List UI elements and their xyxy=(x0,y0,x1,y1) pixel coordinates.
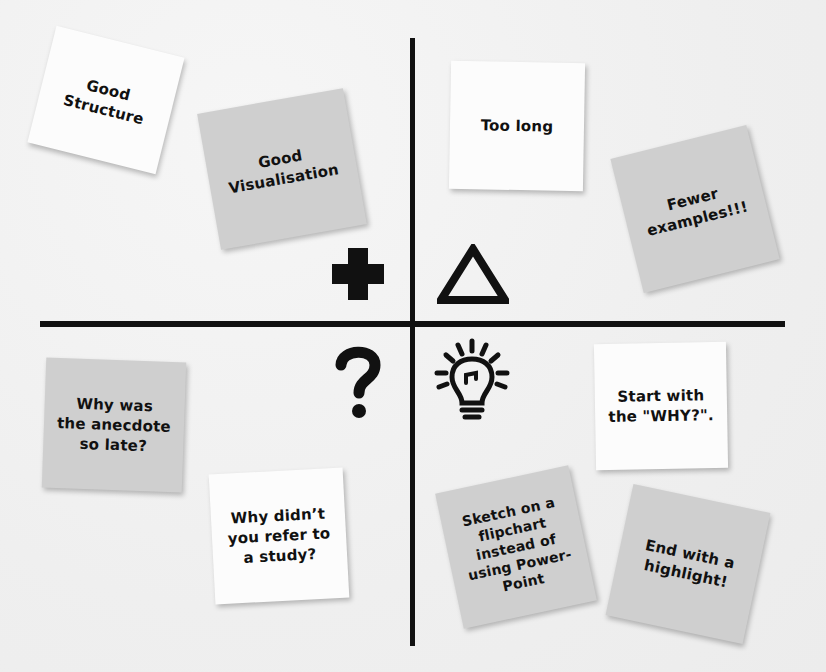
lightbulb-icon xyxy=(432,337,512,427)
sticky-note-refer-study[interactable]: Why didn’t you refer to a study? xyxy=(209,468,350,605)
triangle-delta-icon xyxy=(437,244,509,304)
sticky-note-end-highlight[interactable]: End with a highlight! xyxy=(606,484,771,644)
sticky-note-good-structure[interactable]: Good Structure xyxy=(27,26,184,174)
sticky-note-fewer-examples[interactable]: Fewer examples!!! xyxy=(610,125,779,293)
horizontal-axis xyxy=(40,321,785,327)
sticky-note-good-visualisation[interactable]: Good Visualisation xyxy=(197,88,367,250)
question-mark-icon xyxy=(335,345,381,421)
sticky-note-too-long[interactable]: Too long xyxy=(449,61,585,191)
sticky-note-start-with-why[interactable]: Start with the "WHY?". xyxy=(594,342,728,470)
sticky-note-anecdote-late[interactable]: Why was the anecdote so late? xyxy=(42,358,186,493)
vertical-axis xyxy=(410,38,415,646)
sticky-note-sketch-flipchart[interactable]: Sketch on a flipchart instead of using P… xyxy=(435,465,597,628)
plus-icon xyxy=(330,246,386,302)
whiteboard: Good Structure Good Visualisation Too lo… xyxy=(0,0,826,672)
